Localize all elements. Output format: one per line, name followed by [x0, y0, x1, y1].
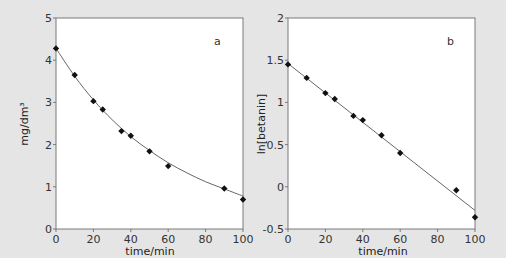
y-axis-title-a: mg/dm³: [18, 102, 31, 146]
x-tick-label: 0: [285, 233, 292, 246]
chart-panel-a: 012345 020406080100 a time/min mg/dm³: [18, 12, 254, 258]
y-tick-label: 1: [45, 181, 52, 194]
x-axis-title-a: time/min: [125, 245, 174, 258]
x-tick-label: 20: [86, 233, 100, 246]
y-axis-title-b: ln[betanin]: [255, 94, 268, 154]
x-axis-ticks-a: 020406080100: [53, 229, 254, 246]
y-tick-label: 2: [277, 12, 284, 25]
plot-area-a: [56, 18, 243, 229]
y-tick-label: 0.5: [267, 139, 285, 152]
chart-panel-b: -0.500.511.52 020406080100 b time/min ln…: [255, 12, 486, 258]
x-axis-ticks-b: 020406080100: [285, 229, 486, 246]
y-tick-label: 2: [45, 139, 52, 152]
y-tick-label: 5: [45, 12, 52, 25]
x-tick-label: 100: [233, 233, 254, 246]
y-tick-label: 1: [277, 96, 284, 109]
x-tick-label: 80: [199, 233, 213, 246]
y-axis-ticks-a: 012345: [45, 12, 56, 236]
chart-canvas: 012345 020406080100 a time/min mg/dm³ -0…: [0, 0, 506, 258]
y-tick-label: -0.5: [263, 223, 284, 236]
figure-background: 012345 020406080100 a time/min mg/dm³ -0…: [0, 0, 506, 258]
y-tick-label: 0: [45, 223, 52, 236]
y-tick-label: 4: [45, 54, 52, 67]
panel-label-a: a: [214, 35, 221, 48]
x-tick-label: 100: [465, 233, 486, 246]
y-tick-label: 0: [277, 181, 284, 194]
x-tick-label: 80: [431, 233, 445, 246]
x-tick-label: 0: [53, 233, 60, 246]
y-tick-label: 1.5: [267, 54, 285, 67]
x-tick-label: 20: [318, 233, 332, 246]
y-tick-label: 3: [45, 96, 52, 109]
x-axis-title-b: time/min: [358, 245, 407, 258]
plot-area-b: [288, 18, 475, 229]
panel-label-b: b: [447, 35, 454, 48]
